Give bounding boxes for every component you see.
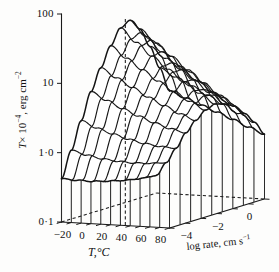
x-tick-label: 0 <box>72 229 92 241</box>
y-tick-label: 100 <box>16 7 54 19</box>
y-tick-label: 10 <box>16 76 54 88</box>
z-tick-label: −2 <box>209 220 227 232</box>
surface-plot-canvas <box>0 0 279 272</box>
z-axis-title-exponent: −1 <box>242 233 250 242</box>
z-tick-label: 0 <box>241 210 259 222</box>
y-tick-label: 0·1 <box>16 215 54 227</box>
z-tick-label: −4 <box>177 229 195 241</box>
x-tick-label: 80 <box>151 233 171 245</box>
surface-mesh-group <box>62 20 265 181</box>
figure-3d-surface-plot: T× 10−4, erg cm−2 T,°C log rate, cm s−1 … <box>0 0 279 272</box>
x-tick-label: 40 <box>111 231 131 243</box>
x-tick-label: −20 <box>53 228 73 240</box>
y-axis-title: T× 10−4, erg cm−2 <box>16 40 28 180</box>
y-axis-title-exponent: −4 <box>14 115 23 123</box>
x-tick-label: 60 <box>131 232 151 244</box>
y-tick-label: 1·0 <box>16 146 54 158</box>
x-tick-label: 20 <box>92 230 112 242</box>
x-axis-title: T,°C <box>88 245 110 260</box>
y-axis-title-prefix: × 10 <box>16 123 28 143</box>
